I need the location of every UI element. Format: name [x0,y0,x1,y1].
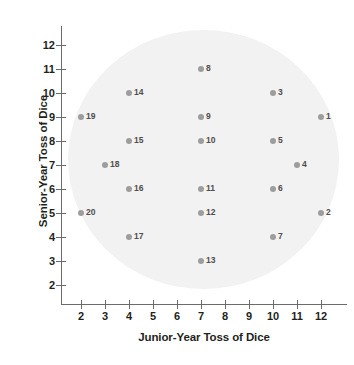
y-axis-tick [56,165,66,166]
x-axis-line [61,304,347,305]
y-axis-tick [56,213,66,214]
y-axis-tick-label: 3 [15,256,55,267]
data-point-marker [126,90,132,96]
y-axis-tick-label: 10 [15,88,55,99]
data-point-label: 11 [206,184,215,193]
data-point-marker [126,234,132,240]
y-axis-tick [56,141,66,142]
x-axis-tick [249,300,250,309]
y-axis-tick [56,189,66,190]
y-axis-tick-label: 5 [15,208,55,219]
data-point-label: 19 [86,112,95,121]
x-axis-tick-label: 7 [189,311,213,322]
x-axis-tick [153,300,154,309]
data-point-label: 3 [278,88,283,97]
scatter-plot-figure: 23456789101112 23456789101112 1234567891… [0,0,354,365]
data-point-label: 15 [134,136,143,145]
y-axis-tick-label: 9 [15,112,55,123]
data-point-label: 13 [206,256,215,265]
y-axis-tick [56,285,66,286]
x-axis-title: Junior-Year Toss of Dice [61,331,347,343]
x-axis-tick-label: 12 [309,311,333,322]
y-axis-tick [56,237,66,238]
data-point-label: 9 [206,112,211,121]
x-axis-tick [225,300,226,309]
data-point-marker [270,90,276,96]
data-point-label: 7 [278,232,283,241]
x-axis-tick [129,300,130,309]
data-point-label: 6 [278,184,283,193]
data-point-marker [126,186,132,192]
x-axis-tick-label: 11 [285,311,309,322]
y-axis-tick-label: 4 [15,232,55,243]
x-axis-tick [321,300,322,309]
data-point-marker [270,186,276,192]
data-point-marker [198,210,204,216]
y-axis-tick [56,93,66,94]
y-axis-tick [56,69,66,70]
data-point-marker [294,162,300,168]
data-point-label: 16 [134,184,143,193]
x-axis-tick-label: 5 [141,311,165,322]
data-point-marker [102,162,108,168]
data-point-marker [198,66,204,72]
y-axis-tick-label: 8 [15,136,55,147]
x-axis-tick-label: 9 [237,311,261,322]
y-axis-tick [56,117,66,118]
data-point-label: 17 [134,232,143,241]
data-point-marker [270,138,276,144]
data-point-label: 2 [326,208,331,217]
y-axis-tick [56,261,66,262]
data-point-label: 20 [86,208,95,217]
x-axis-tick-label: 2 [69,311,93,322]
y-axis-tick-label: 12 [15,40,55,51]
data-point-label: 18 [110,160,119,169]
data-point-marker [198,138,204,144]
data-point-marker [126,138,132,144]
data-point-marker [198,258,204,264]
y-axis-tick [56,45,66,46]
data-point-marker [78,114,84,120]
x-axis-tick [273,300,274,309]
data-point-label: 4 [302,160,307,169]
data-point-marker [198,186,204,192]
data-point-marker [78,210,84,216]
data-point-label: 5 [278,136,283,145]
y-axis-tick-label: 11 [15,64,55,75]
x-axis-tick [201,300,202,309]
data-point-label: 10 [206,136,215,145]
y-axis-tick-label: 2 [15,280,55,291]
x-axis-tick [105,300,106,309]
data-point-label: 8 [206,64,211,73]
x-axis-tick-label: 3 [93,311,117,322]
y-axis-title: Senior-Year Toss of Dice [37,41,49,281]
x-axis-tick [177,300,178,309]
data-point-label: 14 [134,88,143,97]
x-axis-tick-label: 4 [117,311,141,322]
data-point-label: 12 [206,208,215,217]
x-axis-tick-label: 10 [261,311,285,322]
data-point-marker [318,210,324,216]
x-axis-tick-label: 6 [165,311,189,322]
data-point-marker [318,114,324,120]
data-point-marker [198,114,204,120]
x-axis-tick [81,300,82,309]
y-axis-tick-label: 6 [15,184,55,195]
y-axis-tick-label: 7 [15,160,55,171]
data-point-label: 1 [326,112,331,121]
x-axis-tick [297,300,298,309]
x-axis-tick-label: 8 [213,311,237,322]
data-point-marker [270,234,276,240]
